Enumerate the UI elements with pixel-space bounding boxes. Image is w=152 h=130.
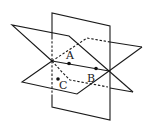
- diagram-canvas: A B C: [0, 0, 152, 130]
- label-a: A: [65, 49, 75, 62]
- intersection-line: [52, 61, 109, 71]
- label-c: C: [59, 79, 67, 92]
- point-a: [67, 62, 71, 66]
- upper-plane: [12, 25, 142, 71]
- label-b: B: [87, 72, 95, 85]
- point-b: [94, 67, 98, 71]
- three-planes-diagram: A B C: [0, 0, 152, 130]
